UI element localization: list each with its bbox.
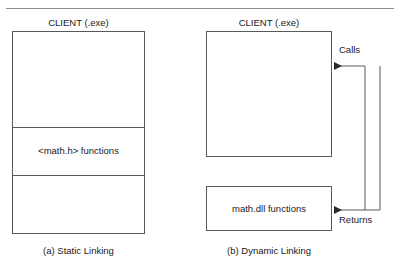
dynamic-caption: (b) Dynamic Linking (196, 245, 342, 256)
returns-label: Returns (339, 214, 372, 225)
calls-wire (334, 66, 365, 210)
calls-label: Calls (339, 44, 360, 55)
call-return-wires (0, 0, 399, 267)
returns-wire (334, 66, 380, 210)
figure-canvas: CLIENT (.exe) <math.h> functions (a) Sta… (0, 0, 399, 267)
